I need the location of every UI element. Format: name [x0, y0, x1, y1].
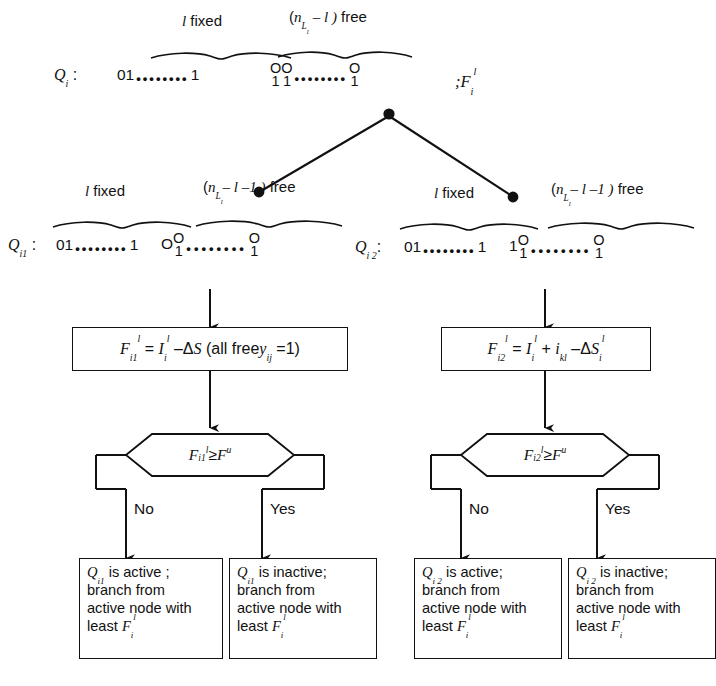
left-free-bits: OO1••••••••O1	[161, 232, 260, 259]
left-formula-box: Fi1l = Iil –ΔS (all freeyij =1)	[72, 327, 348, 371]
result-line-1: Qi 2 is active;	[422, 564, 555, 582]
root-fixed-bits: 01••••••••1	[117, 66, 199, 84]
root-fixed-group-label: l fixed	[182, 12, 222, 30]
free-bit-pair: O1	[281, 62, 292, 89]
left-yes-label: Yes	[270, 500, 295, 518]
result-line-1: Qi 2 is inactive;	[576, 564, 709, 582]
right-decision-text: Fi2l ≥ Fu	[461, 434, 629, 476]
result-line-3: active node with	[87, 600, 216, 618]
result-line-3: active node with	[576, 600, 709, 618]
root-q-label: Qi :	[54, 66, 77, 84]
left-no-result-box: Qi1 is active ; branch from active node …	[79, 558, 223, 659]
right-no-label: No	[469, 500, 489, 518]
right-yes-result-box: Qi 2 is inactive; branch from active nod…	[568, 558, 716, 659]
right-fixed-bits: 01••••••••1	[404, 238, 486, 256]
left-no-label: No	[134, 500, 154, 518]
right-no-result-box: Qi 2 is active; branch from active node …	[414, 558, 562, 659]
left-prefix-bit: O	[161, 235, 173, 252]
left-decision-text: Fi1l ≥ Fu	[126, 434, 294, 476]
right-q-label: Qi 2:	[355, 238, 381, 256]
left-formula-text: Fi1l = Iil –ΔS (all freeyij =1)	[120, 340, 300, 358]
right-formula-text: Fi2l = Iil + ikl –ΔSil	[488, 340, 605, 358]
result-line-3: active node with	[237, 600, 370, 618]
left-yes-result-box: Qi1 is inactive; branch from active node…	[229, 558, 377, 659]
left-decision-hexagon: Fi1l ≥ Fu	[126, 434, 294, 476]
result-line-4: least Fil	[237, 618, 370, 636]
free-bit-pair: O1	[249, 232, 260, 259]
result-line-4: least Fil	[422, 618, 555, 636]
result-line-4: least Fil	[87, 618, 216, 636]
right-formula-box: Fi2l = Iil + ikl –ΔSil	[441, 327, 651, 371]
result-line-2: branch from	[237, 582, 370, 600]
result-line-1: Qi1 is active ;	[87, 564, 216, 582]
root-free-bits: O1O1••••••••O1	[270, 62, 360, 89]
right-yes-label: Yes	[605, 500, 630, 518]
free-bit-pair: O1	[173, 232, 184, 259]
result-line-3: active node with	[422, 600, 555, 618]
free-bit-pair: O1	[270, 62, 281, 89]
right-free-bits: 1O1••••••••O1	[509, 234, 605, 261]
left-q-label: Qi1 :	[8, 236, 36, 254]
right-decision-hexagon: Fi2l ≥ Fu	[461, 434, 629, 476]
left-fixed-bits: 01••••••••1	[56, 236, 138, 254]
free-bit-pair: O1	[593, 234, 604, 261]
result-line-4: least Fil	[576, 618, 709, 636]
right-prefix-bit: 1	[509, 237, 518, 254]
root-free-group-label: (nLI – l ) free	[289, 8, 367, 27]
right-free-group-label: (nLI– l –1 ) free	[551, 180, 644, 199]
left-free-group-label: (nLI– l –1 ) free	[203, 178, 296, 197]
result-line-1: Qi1 is inactive;	[237, 564, 370, 582]
free-bit-pair: O1	[349, 62, 360, 89]
right-fixed-group-label: l fixed	[434, 184, 474, 202]
left-fixed-group-label: l fixed	[85, 182, 125, 200]
free-bit-pair: O1	[518, 234, 529, 261]
root-f-label: ;Fil	[455, 72, 476, 92]
result-line-2: branch from	[87, 582, 216, 600]
